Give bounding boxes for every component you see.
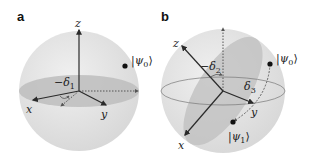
state-label-psi1-b: |ψ1⟩ — [228, 130, 250, 145]
x-axis-label-b: x — [178, 139, 185, 152]
y-axis-label-b: y — [250, 106, 258, 119]
state-label-psi0-a: |ψ0⟩ — [131, 54, 153, 69]
state-label-psi0-b: |ψ0⟩ — [276, 52, 298, 67]
panel-b: b z x y −δ2 δ3 |ψ0⟩ |ψ1⟩ — [161, 9, 298, 156]
y-axis-label-a: y — [100, 108, 108, 121]
panel-b-label: b — [161, 9, 169, 24]
panel-a: a z x y −δ1 |ψ0⟩ — [17, 9, 153, 151]
x-axis-label-a: x — [26, 103, 33, 116]
state-point-psi0-a — [122, 63, 127, 68]
z-axis-label-b: z — [172, 37, 179, 50]
bloch-sphere-figure: a z x y −δ1 |ψ0⟩ b z — [0, 0, 317, 156]
state-point-psi0-b — [267, 61, 272, 66]
panel-a-label: a — [17, 9, 25, 24]
z-axis-label-a: z — [74, 17, 81, 30]
state-point-psi1-b — [230, 119, 235, 124]
